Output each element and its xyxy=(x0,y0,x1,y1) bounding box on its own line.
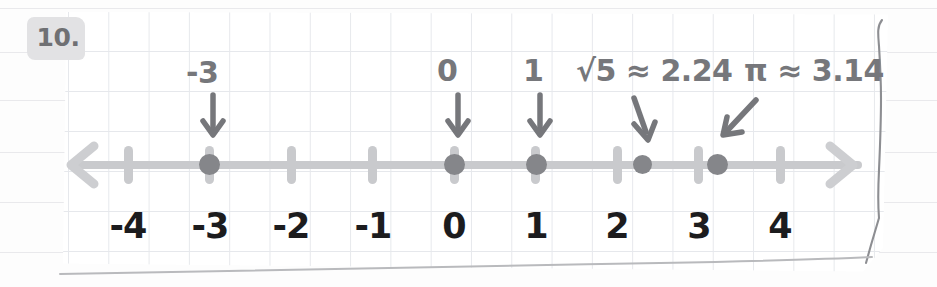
worksheet-number-line-figure: 10. -4 -3 -2 -1 0 1 2 3 4 -3 xyxy=(0,0,937,287)
callout-label-neg3: -3 xyxy=(186,55,218,90)
tick-label-one: 1 xyxy=(506,206,566,246)
tick-label-neg1: -1 xyxy=(343,206,403,246)
ruled-line xyxy=(0,8,937,9)
callout-arrow-one xyxy=(523,93,557,143)
tick-two xyxy=(613,146,622,184)
number-line-axis xyxy=(72,161,862,169)
tick-neg4 xyxy=(124,146,133,184)
callout-label-one: 1 xyxy=(523,53,543,88)
callout-arrow-pi xyxy=(712,94,768,144)
callout-label-pi: π ≈ 3.14 xyxy=(744,53,884,88)
callout-label-zero: 0 xyxy=(437,53,457,88)
problem-number: 10. xyxy=(32,22,84,54)
paper-edge-bottom xyxy=(60,255,880,277)
tick-label-four: 4 xyxy=(750,206,810,246)
callout-arrow-sqrt5 xyxy=(624,96,664,148)
point-sqrt5 xyxy=(633,155,652,174)
tick-label-neg4: -4 xyxy=(98,206,158,246)
tick-label-three: 3 xyxy=(669,206,729,246)
tick-neg2 xyxy=(287,146,296,184)
tick-four xyxy=(776,146,785,184)
tick-label-neg3: -3 xyxy=(180,206,240,246)
point-pi xyxy=(707,154,728,175)
tick-label-zero: 0 xyxy=(424,206,484,246)
callout-label-sqrt5: √5 ≈ 2.24 xyxy=(576,53,732,88)
callout-arrow-zero xyxy=(441,93,475,143)
point-zero xyxy=(444,154,465,175)
tick-label-neg2: -2 xyxy=(261,206,321,246)
arrow-right-icon xyxy=(816,142,862,188)
arrow-left-icon xyxy=(64,142,110,188)
callout-arrow-neg3 xyxy=(196,93,230,143)
point-neg3 xyxy=(199,154,220,175)
tick-three xyxy=(694,146,703,184)
tick-neg1 xyxy=(368,146,377,184)
point-one xyxy=(526,154,547,175)
tick-label-two: 2 xyxy=(587,206,647,246)
